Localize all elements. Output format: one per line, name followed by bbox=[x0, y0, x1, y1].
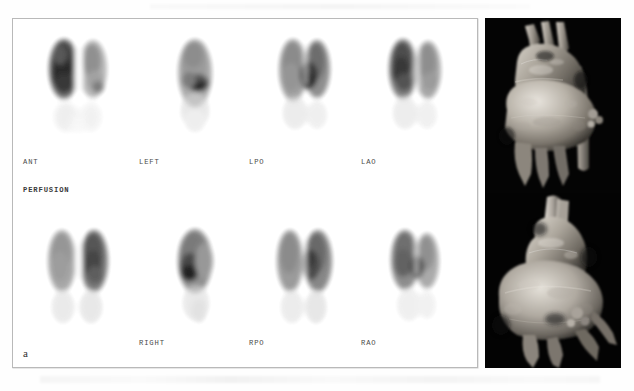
modality-label-perfusion: PERFUSION bbox=[23, 186, 69, 194]
panel-a-scintigraphy: ANT LEFT LPO LAO PERFUSION bbox=[12, 18, 478, 368]
view-label-lpo: LPO bbox=[249, 158, 265, 166]
scan-cell-rpo bbox=[249, 215, 361, 335]
lung-perfusion-image-post bbox=[33, 215, 125, 333]
scan-cell-ant bbox=[23, 25, 135, 145]
scan-cell-rao bbox=[359, 215, 471, 335]
scan-cell-lpo bbox=[249, 25, 361, 145]
lung-perfusion-image-ant bbox=[33, 25, 125, 143]
scintigraphy-row-upper bbox=[13, 25, 477, 145]
scan-cell-left bbox=[139, 25, 251, 145]
lung-perfusion-image-rpo bbox=[259, 215, 351, 333]
lung-perfusion-image-left bbox=[149, 25, 241, 143]
ct-3d-lower-image: b bbox=[485, 193, 621, 368]
lung-perfusion-image-right bbox=[149, 215, 241, 333]
panel-b-ct-3d: b bbox=[485, 18, 621, 368]
view-label-lao: LAO bbox=[361, 158, 377, 166]
scintigraphy-row-lower bbox=[13, 215, 477, 335]
view-label-ant: ANT bbox=[23, 158, 39, 166]
scan-artifact-top bbox=[150, 4, 530, 9]
ct-3d-upper-image bbox=[485, 18, 621, 193]
scan-cell-post bbox=[23, 215, 135, 335]
panel-label-a: a bbox=[23, 347, 28, 359]
view-label-right: RIGHT bbox=[139, 339, 165, 347]
view-label-rao: RAO bbox=[361, 339, 377, 347]
view-label-left: LEFT bbox=[139, 158, 160, 166]
figure-canvas: ANT LEFT LPO LAO PERFUSION bbox=[0, 0, 634, 391]
scan-cell-lao bbox=[359, 25, 471, 145]
lung-perfusion-image-rao bbox=[369, 215, 461, 333]
scan-artifact-bottom bbox=[40, 376, 600, 383]
lung-perfusion-image-lao bbox=[369, 25, 461, 143]
scan-cell-right bbox=[139, 215, 251, 335]
view-label-rpo: RPO bbox=[249, 339, 265, 347]
lung-perfusion-image-lpo bbox=[259, 25, 351, 143]
